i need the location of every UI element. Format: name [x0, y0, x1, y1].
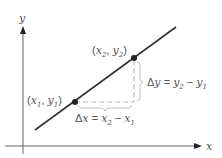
point-1-label: (x1, y1)	[27, 94, 62, 109]
delta-y-brace	[137, 62, 143, 101]
point-2	[131, 55, 137, 61]
delta-x-brace	[78, 105, 132, 111]
slope-diagram: y x (x2, y2) (x1, y1) Δy = y2 − y1 Δx = …	[0, 0, 222, 158]
x-axis-label: x	[206, 140, 213, 153]
delta-y-label: Δy = y2 − y1	[147, 76, 207, 91]
point-1	[72, 99, 78, 105]
y-axis-label: y	[18, 12, 26, 25]
x-axis-arrow-icon	[194, 143, 202, 149]
point-2-label: (x2, y2)	[92, 44, 127, 59]
y-axis-arrow-icon	[20, 26, 26, 34]
delta-x-label: Δx = x2 − x1	[75, 112, 135, 127]
